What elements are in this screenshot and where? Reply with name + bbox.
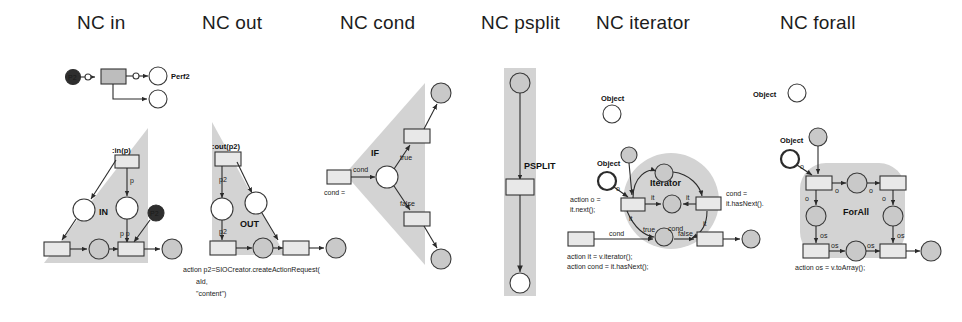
- nc-iterator-object-place: [598, 172, 616, 190]
- nc-iterator-arc-false: false: [678, 230, 693, 237]
- nc-forall-arc-os-1: os: [820, 232, 828, 239]
- nc-iterator-arc-it-4: it: [703, 220, 707, 227]
- arc-token-p-in: [85, 74, 91, 80]
- nc-iterator-caption-line-2: action cond = it.hasNext();: [567, 263, 649, 271]
- nc-iterator-place-ring-top: [655, 164, 673, 182]
- nc-cond-arc-true-label: true: [400, 154, 412, 161]
- nc-forall-legend-object-label: Object: [753, 90, 777, 99]
- nc-iterator-place-center: [663, 195, 681, 213]
- place-secondary-out: [149, 90, 167, 108]
- nc-iterator-arc-it-1: it: [651, 194, 655, 201]
- nc-forall-transition-right-top: [880, 176, 906, 190]
- panel-nc-iterator: Object Object o action o = it.next(); it…: [567, 94, 764, 271]
- nc-out-caption-line-2: aId,: [196, 278, 208, 285]
- nc-cond-arc-false-label: false: [400, 200, 415, 207]
- nc-in-transition-top-label: :in(p): [112, 146, 131, 155]
- nc-out-caption-line-1: action p2=SIOCreator.createActionRequest…: [183, 266, 320, 274]
- nc-cond-transition-true: [404, 129, 430, 143]
- nc-forall-arc-o-2: o: [835, 187, 839, 194]
- nc-iterator-action-o-1: action o =: [570, 196, 601, 203]
- nc-iterator-arc-it-3: it: [629, 215, 633, 222]
- nc-forall-place-exit: [921, 241, 941, 261]
- nc-forall-place-left: [806, 206, 826, 226]
- nc-in-place-exit: [162, 239, 182, 259]
- panel-nc-out: :out(p2) p2 p2 OUT action p2=SIOCreator.…: [183, 122, 346, 298]
- nc-in-place-bottom: [89, 239, 109, 259]
- nc-psplit-place-top: [510, 73, 530, 93]
- panel-nc-psplit: PSPLIT: [504, 68, 556, 296]
- nc-forall-transition-right-bottom: [880, 244, 906, 258]
- nc-iterator-cond-label-1: cond =: [726, 190, 747, 197]
- nc-iterator-object-label: Object: [597, 159, 621, 168]
- nc-out-arc-p2-lower: p2: [219, 228, 227, 236]
- nc-iterator-legend-object-icon: [603, 105, 621, 123]
- nc-cond-place-decision: [376, 166, 398, 188]
- nc-cond-place-true: [431, 83, 451, 103]
- nc-iterator-arc-o-label: o: [616, 185, 620, 192]
- nc-psplit-place-bottom: [510, 273, 530, 293]
- nc-iterator-arc-it-2: it: [686, 194, 690, 201]
- nc-iterator-place-exit: [742, 230, 760, 248]
- nc-in-place-left: [73, 199, 95, 221]
- nc-iterator-transition-in: [568, 232, 594, 246]
- nc-out-place-right: [245, 192, 267, 214]
- nc-cond-transition-in: [327, 170, 351, 184]
- nc-forall-transition-left-top: [806, 176, 832, 190]
- nc-forall-transition-left-bottom: [803, 244, 829, 258]
- nc-iterator-caption-line-1: action it = v.iterator();: [567, 253, 632, 261]
- nc-forall-place-top-mid: [847, 173, 867, 193]
- nc-in-place-mid: [116, 197, 138, 219]
- nc-forall-place-bottom-mid: [846, 241, 866, 261]
- nc-forall-arc-o-1: o: [800, 163, 804, 170]
- nc-cond-region-label: IF: [371, 148, 380, 158]
- place-perf2: [149, 67, 167, 85]
- nc-forall-place-top: [809, 128, 827, 146]
- place-perf2-label: Perf2: [171, 72, 190, 81]
- nc-iterator-cond-label-2: it.hasNext().: [726, 200, 764, 208]
- nc-iterator-transition-out: [697, 232, 723, 246]
- nc-out-arc-p2-upper: p2: [219, 176, 227, 184]
- nc-in-transition-left: [44, 242, 70, 256]
- nc-iterator-action-o-2: it.next();: [570, 206, 595, 214]
- nc-out-transition-left: [210, 241, 236, 255]
- nc-psplit-transition: [506, 179, 534, 195]
- nc-in-example-net: P2 Perf2: [66, 67, 190, 108]
- nc-psplit-region-label: PSPLIT: [524, 161, 556, 171]
- nc-in-arc-pp-label: p p: [120, 230, 130, 238]
- nc-forall-caption-line-1: action os = v.toArray();: [795, 264, 865, 272]
- nc-cond-place-false: [431, 249, 451, 269]
- nc-forall-arc-o-3: o: [869, 187, 873, 194]
- panel-nc-in: P2 Perf2 :in(p) p IN p p: [44, 67, 190, 263]
- nc-iterator-transition-next: [621, 198, 645, 211]
- nc-cond-arc-cond-label: cond: [353, 166, 368, 173]
- nc-iterator-place-top: [621, 147, 637, 163]
- nc-in-token-p2-label: P2: [150, 210, 159, 217]
- nc-iterator-arc-true: true: [643, 226, 655, 233]
- nc-out-transition-right: [283, 241, 309, 255]
- nc-forall-arc-o-5: o: [882, 195, 886, 202]
- nc-forall-arc-os-3: os: [831, 242, 839, 249]
- nc-forall-place-right: [883, 206, 903, 226]
- nc-iterator-arc-cond-left: cond: [609, 230, 624, 237]
- figure-nc-patterns: NC in NC out NC cond NC psplit NC iterat…: [0, 0, 962, 322]
- nc-out-caption-line-3: "content"): [196, 290, 226, 298]
- nc-forall-arc-o-4: o: [805, 195, 809, 202]
- place-p2-label: P2: [68, 74, 77, 81]
- panel-nc-forall: Object Object o o o ForAll o os: [753, 84, 941, 272]
- nc-out-place-exit: [326, 238, 346, 258]
- nc-iterator-transition-hasnext: [696, 197, 721, 210]
- nc-cond-transition-false: [404, 212, 430, 226]
- nc-forall-legend-object-icon: [788, 84, 806, 102]
- figure-canvas: P2 Perf2 :in(p) p IN p p: [0, 0, 962, 322]
- transition-in-example: [101, 69, 126, 84]
- nc-in-region-label: IN: [99, 207, 108, 217]
- nc-forall-region-label: ForAll: [843, 207, 869, 217]
- nc-forall-arc-os-2: os: [897, 232, 905, 239]
- nc-forall-object-label: Object: [780, 136, 804, 145]
- nc-out-place-bottom: [253, 238, 273, 258]
- nc-forall-arc-os-4: os: [867, 242, 875, 249]
- arc-token-p-out: [133, 73, 139, 79]
- nc-cond-box-label: cond =: [324, 189, 345, 196]
- nc-out-place-left: [211, 198, 233, 220]
- nc-iterator-legend-object-label: Object: [601, 94, 625, 103]
